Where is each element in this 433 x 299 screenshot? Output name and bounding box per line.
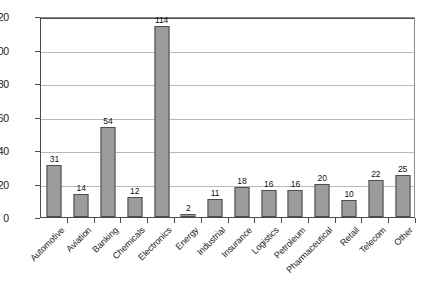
bar-value-label: 12	[130, 186, 139, 196]
x-axis-tick-mark	[67, 218, 68, 223]
x-axis-tick-mark	[228, 218, 229, 223]
x-axis-tick-mark	[94, 218, 95, 223]
bar-slot: 2	[175, 18, 202, 217]
x-axis-tick-mark	[281, 218, 282, 223]
y-axis-tick-mark	[35, 218, 40, 219]
bar[interactable]	[288, 190, 303, 217]
y-axis-tick-label: 100	[0, 45, 9, 57]
x-axis-category-label: Automotive	[17, 225, 66, 274]
bar-slot: 16	[282, 18, 309, 217]
bar[interactable]	[208, 199, 223, 217]
x-axis-tick-mark	[254, 218, 255, 223]
bar-slot: 12	[121, 18, 148, 217]
bar-value-label: 20	[318, 173, 327, 183]
y-axis-tick-mark	[35, 151, 40, 152]
bar-slot: 10	[336, 18, 363, 217]
bar-value-label: 25	[398, 164, 407, 174]
bar-value-label: 10	[344, 189, 353, 199]
bar-value-label: 22	[371, 169, 380, 179]
bar-value-label: 54	[103, 116, 112, 126]
x-axis-tick-mark	[308, 218, 309, 223]
y-axis-tick-mark	[35, 17, 40, 18]
bar[interactable]	[74, 194, 89, 217]
bar[interactable]	[234, 187, 249, 217]
y-axis-tick-label: 60	[0, 112, 9, 124]
x-axis-tick-mark	[120, 218, 121, 223]
x-axis-tick-mark	[415, 218, 416, 223]
bar-slot: 31	[41, 18, 68, 217]
y-axis-tick-mark	[35, 185, 40, 186]
bar[interactable]	[154, 26, 169, 217]
y-axis-tick-label: 120	[0, 11, 9, 23]
bar[interactable]	[261, 190, 276, 217]
x-axis-tick-mark	[335, 218, 336, 223]
bar-value-label: 18	[237, 176, 246, 186]
bar-slot: 114	[148, 18, 175, 217]
bar-slot: 22	[362, 18, 389, 217]
bar-slot: 54	[95, 18, 122, 217]
bar-value-label: 31	[50, 154, 59, 164]
bar-slot: 14	[68, 18, 95, 217]
plot-area: 3114541211421118161620102225	[40, 17, 415, 218]
x-axis-tick-mark	[361, 218, 362, 223]
bar[interactable]	[100, 127, 115, 217]
bar-chart-figure: 3114541211421118161620102225 02040608010…	[0, 0, 433, 299]
bar[interactable]	[368, 180, 383, 217]
bar-value-label: 11	[211, 188, 220, 198]
bar[interactable]	[47, 165, 62, 217]
y-axis-tick-label: 40	[0, 145, 9, 157]
bar[interactable]	[181, 214, 196, 217]
x-axis-tick-mark	[174, 218, 175, 223]
bar[interactable]	[395, 175, 410, 217]
bar-value-label: 16	[264, 179, 273, 189]
y-axis-tick-mark	[35, 118, 40, 119]
bar-slot: 18	[229, 18, 256, 217]
bar[interactable]	[127, 197, 142, 217]
y-axis-tick-mark	[35, 51, 40, 52]
bar-value-label: 114	[155, 15, 168, 25]
bar-value-label: 16	[291, 179, 300, 189]
bar-slot: 11	[202, 18, 229, 217]
y-axis-tick-mark	[35, 84, 40, 85]
bar-value-label: 2	[186, 203, 191, 213]
bar-slot: 25	[389, 18, 416, 217]
y-axis-tick-label: 80	[0, 78, 9, 90]
bar-value-label: 14	[77, 183, 86, 193]
y-axis-tick-label: 20	[0, 179, 9, 191]
y-axis-tick-label: 0	[0, 212, 9, 224]
bar-slot: 16	[255, 18, 282, 217]
bar-slot: 20	[309, 18, 336, 217]
x-axis-tick-mark	[147, 218, 148, 223]
bar[interactable]	[342, 200, 357, 217]
bar[interactable]	[315, 184, 330, 218]
x-axis-tick-mark	[388, 218, 389, 223]
x-axis-tick-mark	[201, 218, 202, 223]
